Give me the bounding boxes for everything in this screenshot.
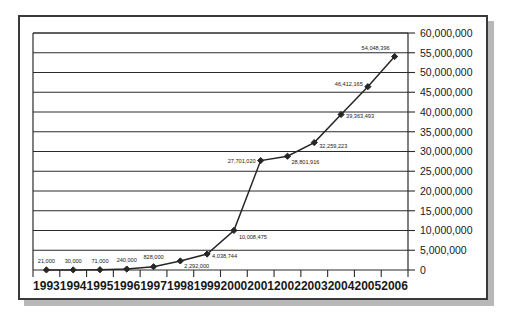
data-point-labels-group: 21,00030,00071,000240,000828,0002,292,00… [38,45,390,269]
x-axis-tick-label: 1999 [194,279,221,293]
y-axis-tick-label: 25,000,000 [420,165,473,177]
x-axis-tick-label: 2000 [221,279,248,293]
y-axis-tick-label: 60,000,000 [420,27,473,39]
data-point-marker [258,157,264,163]
data-point-marker [177,258,183,264]
data-point-label: 828,000 [143,254,163,260]
data-point-label: 2,292,000 [184,263,209,269]
data-point-marker [150,264,156,270]
x-axis-ticks-group [33,270,408,277]
data-point-label: 30,000 [65,258,82,264]
y-axis-labels-group: 05,000,00010,000,00015,000,00020,000,000… [420,27,473,276]
data-point-label: 71,000 [91,258,108,264]
gridlines-group [33,33,408,270]
y-axis-tick-label: 5,000,000 [420,244,467,256]
x-axis-tick-label: 2006 [381,279,408,293]
y-axis-tick-label: 10,000,000 [420,224,473,236]
data-point-label: 27,701,020 [228,158,256,164]
y-axis-tick-label: 45,000,000 [420,86,473,98]
data-point-marker [43,267,49,273]
x-axis-tick-label: 1998 [167,279,194,293]
data-point-label: 46,412,165 [335,81,363,87]
line-chart: 05,000,00010,000,00015,000,00020,000,000… [0,0,507,322]
data-point-label: 240,000 [117,257,137,263]
data-point-marker [284,153,290,159]
data-point-marker [70,267,76,273]
x-axis-tick-label: 2005 [354,279,381,293]
x-axis-tick-label: 1996 [113,279,140,293]
y-axis-tick-label: 55,000,000 [420,47,473,59]
y-axis-tick-label: 50,000,000 [420,66,473,78]
x-axis-tick-label: 1997 [140,279,167,293]
x-axis-tick-label: 2004 [328,279,355,293]
data-point-label: 21,000 [38,258,55,264]
data-point-label: 54,048,396 [362,45,390,51]
x-axis-tick-label: 1993 [33,279,60,293]
data-point-label: 28,801,916 [291,159,319,165]
data-line-group [46,57,394,270]
x-axis-tick-label: 1995 [87,279,114,293]
data-line [46,57,394,270]
y-axis-ticks-group [408,33,415,270]
data-point-label: 39,363,493 [346,113,374,119]
data-point-label: 10,008,475 [239,234,267,240]
x-axis-tick-label: 2002 [274,279,301,293]
x-axis-labels-group: 1993199419951996199719981999200020012002… [33,279,408,293]
data-point-marker [97,267,103,273]
x-axis-tick-label: 1994 [60,279,87,293]
x-axis-tick-label: 2003 [301,279,328,293]
data-point-marker [124,266,130,272]
chart-container: 05,000,00010,000,00015,000,00020,000,000… [0,0,507,322]
data-point-label: 4,038,744 [212,253,237,259]
data-point-label: 32,259,223 [319,143,347,149]
y-axis-tick-label: 15,000,000 [420,205,473,217]
y-axis-tick-label: 0 [420,264,426,276]
x-axis-tick-label: 2001 [247,279,274,293]
y-axis-tick-label: 40,000,000 [420,106,473,118]
y-axis-tick-label: 20,000,000 [420,185,473,197]
y-axis-tick-label: 30,000,000 [420,145,473,157]
y-axis-tick-label: 35,000,000 [420,126,473,138]
